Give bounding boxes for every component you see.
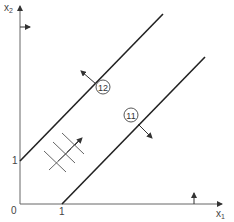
y-axis-label: x2 <box>4 3 13 13</box>
constraint-line-11 <box>62 57 205 204</box>
constraint-line-12 <box>20 14 163 161</box>
hatch-grid <box>44 133 84 176</box>
line-12-label: 12 <box>96 80 110 94</box>
line-12-normal-arrow-icon <box>81 71 96 84</box>
x-tick-label: 1 <box>59 207 65 217</box>
y-tick-label: 1 <box>12 156 18 166</box>
line-11-normal-arrow-icon <box>138 124 152 138</box>
hatch-direction-arrow-icon <box>75 138 82 145</box>
diagram-canvas: 12 11 <box>0 0 234 222</box>
line-11-label: 11 <box>124 108 138 122</box>
x-axis-label-sub: 1 <box>221 213 225 220</box>
y-axis-label-sub: 2 <box>9 7 13 14</box>
origin-label: 0 <box>11 206 17 216</box>
line-11-label-text: 11 <box>126 111 135 121</box>
line-12-label-text: 12 <box>98 83 108 93</box>
x-axis-label: x1 <box>216 209 225 219</box>
